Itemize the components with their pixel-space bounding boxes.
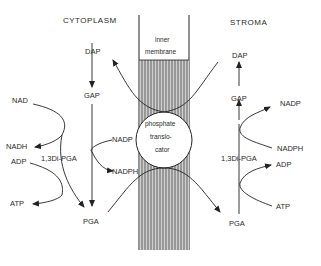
cyto-nad: NAD: [12, 97, 28, 105]
cyto-nadp: NADP: [112, 136, 133, 144]
stroma-pga: PGA: [229, 220, 245, 228]
stroma-heading: STROMA: [230, 19, 267, 27]
cyto-dap: DAP: [85, 48, 100, 56]
stroma-bpga: 1,3Di-PGA: [221, 155, 257, 163]
stroma-adp: ADP: [276, 161, 291, 169]
translocator-label-2: translo-: [150, 134, 172, 141]
membrane-label-2: membrane: [145, 49, 176, 56]
cytoplasm-heading: CYTOPLASM: [63, 17, 117, 25]
translocator-label-3: cator: [155, 147, 169, 154]
cyto-pga: PGA: [83, 218, 99, 226]
cyto-nadph: NADPH: [112, 168, 138, 176]
stroma-dap: DAP: [232, 52, 247, 60]
stroma-nadph: NADPH: [277, 145, 303, 153]
translocator-label-1: phosphate: [145, 121, 175, 128]
stroma-gap: GAP: [231, 95, 247, 103]
cyto-gap: GAP: [84, 92, 100, 100]
diagram-canvas: CYTOPLASM STROMA inner membrane phosphat…: [0, 0, 321, 266]
cyto-adp: ADP: [11, 158, 26, 166]
cyto-atp: ATP: [10, 200, 24, 208]
cyto-nadh: NADH: [6, 143, 27, 151]
cyto-bpga: 1,3Di-PGA: [41, 155, 77, 163]
membrane-label-1: inner: [155, 37, 169, 44]
stroma-atp: ATP: [276, 203, 290, 211]
stroma-nadp: NADP: [280, 100, 301, 108]
